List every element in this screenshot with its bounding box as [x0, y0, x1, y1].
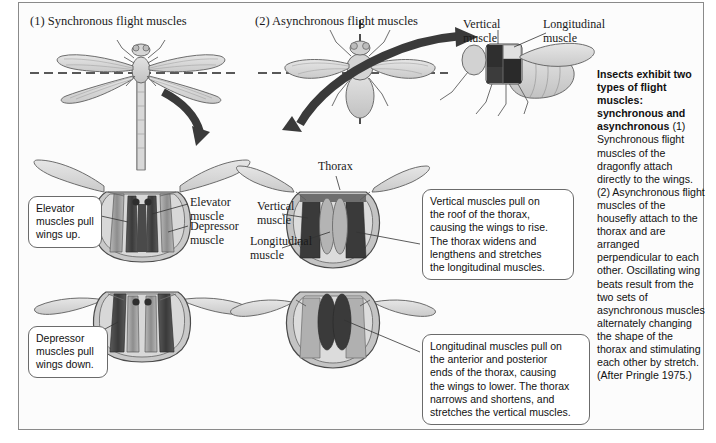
panel-title-asynchronous: (2) Asynchronous flight muscles — [255, 14, 418, 29]
panel-title-synchronous: (1) Synchronous flight muscles — [30, 14, 187, 29]
figure-caption: Insects exhibit two types of flight musc… — [597, 68, 705, 382]
caption-body: (1) Synchronous flight muscles of the dr… — [597, 120, 705, 381]
label-longitudinal-muscle-mid: Longitudinal muscle — [250, 235, 312, 262]
callout-elevator: Elevator muscles pull wings up. — [28, 196, 102, 248]
callout-longitudinal: Longitudinal muscles pull on the anterio… — [422, 334, 590, 425]
callout-vertical: Vertical muscles pull on the roof of the… — [422, 189, 574, 280]
label-longitudinal-muscle-fly: Longitudinal muscle — [543, 18, 605, 45]
label-vertical-muscle-mid: Vertical muscle — [257, 200, 294, 227]
label-thorax: Thorax — [318, 160, 353, 174]
label-depressor-muscle: Depressor muscle — [190, 220, 239, 247]
figure-container: (1) Synchronous flight muscles (2) Async… — [0, 0, 716, 443]
label-vertical-muscle-fly: Vertical muscle — [463, 18, 500, 45]
callout-depressor: Depressor muscles pull wings down. — [28, 326, 108, 378]
